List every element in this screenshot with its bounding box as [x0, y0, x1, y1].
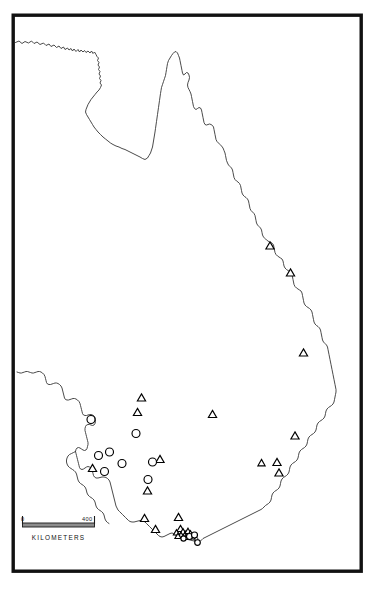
marker-circle [87, 416, 95, 424]
map-background [0, 0, 374, 590]
marker-circle [144, 476, 152, 484]
marker-circle [149, 458, 157, 466]
scale-max-label: 400 [82, 516, 92, 522]
distribution-map-figure: 0 400 KILOMETERS [0, 0, 374, 590]
map-svg-canvas: 0 400 KILOMETERS [0, 0, 374, 590]
marker-circle [181, 536, 186, 541]
marker-circle [95, 452, 103, 460]
scale-caption-label: KILOMETERS [32, 534, 86, 541]
scale-bar-track [23, 523, 95, 527]
marker-circle [192, 532, 198, 538]
marker-circle [132, 430, 140, 438]
marker-circle [195, 540, 201, 546]
marker-circle [101, 468, 109, 476]
marker-circle [118, 460, 126, 468]
marker-circle [106, 448, 114, 456]
